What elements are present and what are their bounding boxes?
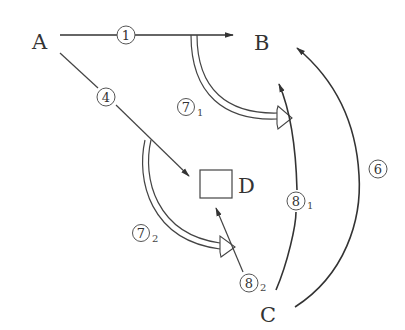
edge-7-1: 7 1 xyxy=(178,35,293,129)
edge-4-label: 4 xyxy=(102,90,110,105)
diagram-canvas: A B C D 1 4 7 1 7 2 8 1 xyxy=(0,0,405,330)
edge-8-2-label: 8 xyxy=(245,276,253,291)
node-b-label: B xyxy=(254,31,269,55)
edge-7-2-label: 7 xyxy=(137,226,145,241)
edge-8-1-label: 8 xyxy=(292,194,300,209)
edge-1: 1 xyxy=(60,26,233,44)
node-c-label: C xyxy=(260,303,276,327)
edge-6-label: 6 xyxy=(374,162,382,177)
edge-8-1-subscript: 1 xyxy=(307,200,313,211)
node-d-label: D xyxy=(238,174,255,198)
node-d-square xyxy=(200,170,232,198)
edge-8-2-subscript: 2 xyxy=(260,282,266,293)
edge-6: 6 xyxy=(295,48,387,307)
edge-7-2-subscript: 2 xyxy=(152,233,158,244)
node-a-label: A xyxy=(31,30,48,54)
edge-7-1-subscript: 1 xyxy=(197,107,203,118)
edge-4: 4 xyxy=(60,53,189,176)
edge-1-label: 1 xyxy=(122,28,130,43)
edge-7-1-label: 7 xyxy=(182,100,190,115)
